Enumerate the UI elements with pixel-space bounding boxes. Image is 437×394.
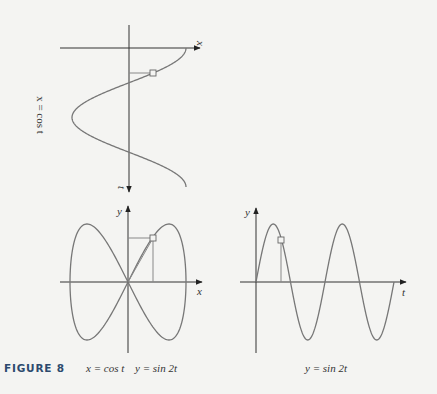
caption-right: y = sin 2t: [304, 362, 348, 374]
left-marker-square: [150, 235, 156, 241]
left-x-label: x: [196, 285, 202, 297]
top-plot: x t x = cos t: [35, 25, 207, 192]
caption-left-x: x = cos t: [85, 362, 125, 374]
right-marker-square: [278, 237, 284, 243]
left-y-label: y: [116, 205, 122, 217]
caption-left-y: y = sin 2t: [134, 362, 178, 374]
left-radial-line: [128, 238, 153, 282]
top-t-label: t: [116, 186, 128, 190]
top-x-label: x: [195, 40, 207, 46]
right-y-label: y: [244, 206, 250, 218]
bottom-left-plot: y x: [60, 205, 202, 353]
figure-label: FIGURE 8: [4, 362, 65, 374]
right-t-label: t: [402, 286, 406, 298]
top-marker-square: [150, 70, 156, 76]
top-side-label: x = cos t: [35, 96, 47, 134]
figure-canvas: x t x = cos t y x y t FIGURE 8 x = cos t…: [0, 0, 437, 394]
bottom-right-plot: y t: [240, 206, 406, 353]
